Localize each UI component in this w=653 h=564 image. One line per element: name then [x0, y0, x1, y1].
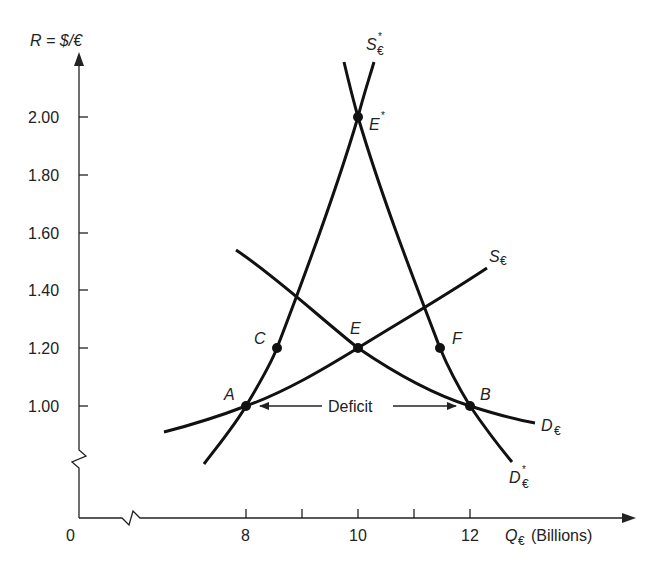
svg-text:€: € — [500, 254, 507, 268]
svg-text:S: S — [489, 248, 500, 265]
x-axis-title: Q € (Billions) — [505, 527, 592, 548]
y-tick-1.20: 1.20 — [28, 340, 59, 357]
x-tick-12: 12 — [461, 527, 479, 544]
svg-text:*: * — [522, 464, 526, 475]
point-a — [241, 401, 251, 411]
svg-text:E: E — [369, 116, 380, 133]
point-c — [272, 343, 282, 353]
label-s-euro: S € — [489, 248, 507, 268]
svg-text:*: * — [381, 110, 385, 121]
label-b: B — [480, 386, 491, 403]
y-tick-1.40: 1.40 — [28, 282, 59, 299]
svg-text:S: S — [366, 36, 377, 53]
point-e-star — [353, 112, 363, 122]
deficit-annotation: Deficit — [260, 398, 456, 415]
point-f — [435, 343, 445, 353]
label-e-star: E * — [369, 110, 385, 133]
y-tick-1.80: 1.80 — [28, 167, 59, 184]
label-e: E — [350, 320, 361, 337]
y-axis-arrow-icon — [74, 52, 84, 66]
svg-text:Q: Q — [505, 527, 517, 544]
label-c: C — [254, 330, 266, 347]
label-f: F — [452, 330, 463, 347]
svg-text:D: D — [509, 469, 521, 486]
x-tick-10: 10 — [349, 527, 367, 544]
x-axis — [79, 509, 636, 525]
label-a: A — [223, 386, 235, 403]
svg-text:€: € — [522, 477, 529, 491]
deficit-label: Deficit — [328, 398, 373, 415]
y-tick-2.00: 2.00 — [28, 109, 59, 126]
svg-text:€: € — [377, 44, 384, 58]
y-axis — [72, 52, 88, 518]
svg-text:*: * — [378, 31, 382, 42]
y-axis-title: R = $/€ — [30, 32, 83, 49]
svg-text:€: € — [518, 534, 525, 548]
exchange-rate-chart: R = $/€ 2.00 1.80 1.60 1.40 1.20 1.00 0 … — [0, 0, 653, 564]
x-tick-8: 8 — [241, 527, 250, 544]
label-s-star-euro: S * € — [366, 31, 384, 58]
y-tick-1.00: 1.00 — [28, 398, 59, 415]
point-b — [465, 401, 475, 411]
label-d-euro: D € — [541, 417, 561, 438]
svg-text:D: D — [541, 417, 553, 434]
x-axis-arrow-icon — [622, 513, 636, 523]
svg-text:€: € — [554, 424, 561, 438]
x-tick-0: 0 — [66, 527, 75, 544]
y-tick-1.60: 1.60 — [28, 225, 59, 242]
svg-text:(Billions): (Billions) — [531, 527, 592, 544]
point-e — [353, 343, 363, 353]
label-d-star-euro: D * € — [509, 464, 529, 491]
